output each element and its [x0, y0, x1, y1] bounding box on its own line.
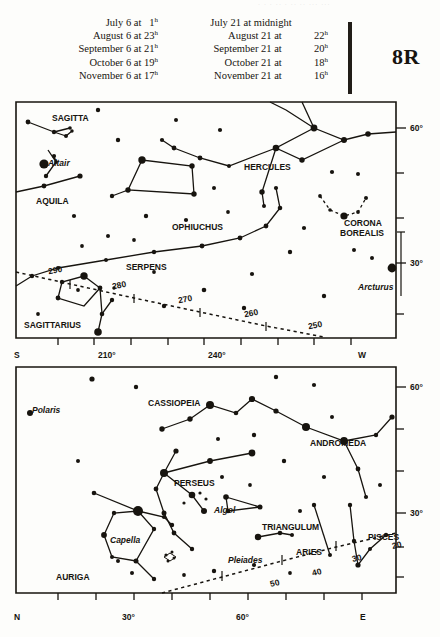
azimuth-label-e: E: [360, 612, 366, 622]
chart-number: 8R: [392, 44, 420, 70]
label-arcturus: Arcturus: [358, 282, 393, 292]
declination-label-60: 60°: [410, 123, 423, 133]
schedule-row: September 6 at 21h: [0, 42, 158, 55]
schedule-row: September 21 at20h: [168, 42, 340, 55]
schedule-row: July 6 at 1h: [0, 16, 158, 29]
azimuth-label-s: S: [14, 350, 20, 360]
label-cassiopeia: CASSIOPEIA: [148, 398, 200, 408]
label-algol: Algol: [214, 505, 235, 515]
azimuth-label-210: 210°: [98, 350, 116, 360]
label-corona-borealis-line1: CORONA: [344, 218, 382, 228]
schedule-column-right: July 21 at midnight August 21 at22h Sept…: [168, 16, 340, 82]
declination-label-30: 30°: [410, 508, 423, 518]
label-perseus: PERSEUS: [174, 478, 215, 488]
azimuth-label-60: 60°: [236, 612, 249, 622]
label-corona-borealis-line2: BOREALIS: [340, 228, 384, 238]
label-altair: Altair: [48, 158, 70, 168]
azimuth-label-n: N: [14, 612, 20, 622]
visibility-schedule: July 6 at 1h August 6 at 23h September 6…: [0, 16, 340, 82]
schedule-row: November 21 at16h: [168, 69, 340, 82]
schedule-row: October 21 at18h: [168, 56, 340, 69]
schedule-column-left: July 6 at 1h August 6 at 23h September 6…: [0, 16, 168, 82]
label-andromeda: ANDROMEDA: [310, 438, 366, 448]
label-auriga: AURIGA: [56, 572, 90, 582]
declination-label-30: 30°: [410, 258, 423, 268]
schedule-row: August 21 at22h: [168, 29, 340, 42]
declination-label-60: 60°: [410, 382, 423, 392]
vertical-divider-rule: [348, 22, 352, 94]
label-polaris: Polaris: [32, 405, 60, 415]
label-capella: Capella: [110, 535, 140, 545]
azimuth-label-w: W: [358, 350, 366, 360]
label-aries: ARIES: [296, 547, 322, 557]
azimuth-label-240: 240°: [208, 350, 226, 360]
label-hercules: HERCULES: [244, 162, 291, 172]
label-serpens: SERPENS: [126, 262, 167, 272]
schedule-row: November 6 at 17h: [0, 69, 158, 82]
scan-remnant-text: · · · ·· · ·· ·· ··· ···: [258, 2, 436, 9]
label-aquila: AQUILA: [36, 196, 69, 206]
label-sagitta: SAGITTA: [52, 113, 89, 123]
schedule-row: October 6 at 19h: [0, 56, 158, 69]
schedule-row: July 21 at midnight: [168, 16, 340, 29]
label-sagittarius: SAGITTARIUS: [24, 320, 81, 330]
label-ophiuchus: OPHIUCHUS: [172, 222, 223, 232]
azimuth-label-30: 30°: [122, 612, 135, 622]
schedule-row: August 6 at 23h: [0, 29, 158, 42]
label-pleiades: Pleiades: [228, 555, 263, 565]
label-triangulum: TRIANGULUM: [262, 522, 319, 532]
